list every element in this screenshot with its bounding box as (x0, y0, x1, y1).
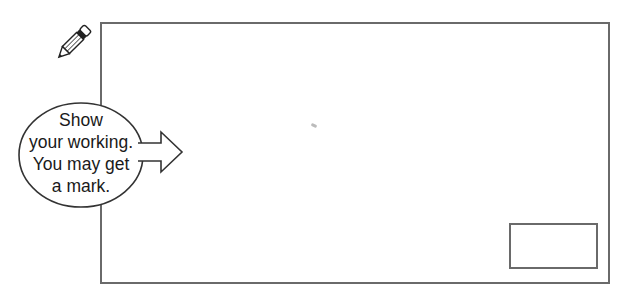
callout-line: a mark. (19, 175, 143, 197)
callout-line: Show (19, 109, 143, 131)
answer-box[interactable] (509, 223, 598, 269)
arrow-icon (138, 132, 182, 172)
callout-line: your working. (19, 131, 143, 153)
callout-line: You may get (19, 153, 143, 175)
callout-text: Show your working. You may get a mark. (19, 109, 143, 197)
